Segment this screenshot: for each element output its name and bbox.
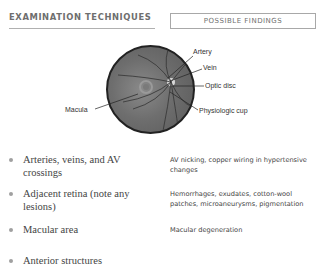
label-artery: Artery xyxy=(193,48,212,55)
bullet-icon xyxy=(9,192,13,196)
technique-text: Anterior structures xyxy=(23,254,153,267)
bullet-icon xyxy=(9,259,13,263)
finding-text: Macular degeneration xyxy=(170,225,315,235)
label-vein: Vein xyxy=(203,64,217,71)
bullet-icon xyxy=(9,158,13,162)
technique-text: Arteries, veins, and AV crossings xyxy=(23,153,153,179)
technique-text: Adjacent retina (note any lesions) xyxy=(23,187,153,213)
finding-text: AV nicking, copper wiring in hypertensiv… xyxy=(170,155,315,175)
label-optic-disc: Optic disc xyxy=(205,82,236,89)
bullet-icon xyxy=(9,228,13,232)
label-physiologic-cup: Physiologic cup xyxy=(199,107,248,114)
label-macula: Macula xyxy=(65,106,88,113)
technique-text: Macular area xyxy=(23,223,153,236)
finding-text: Hemorrhages, exudates, cotton-wool patch… xyxy=(170,189,315,209)
